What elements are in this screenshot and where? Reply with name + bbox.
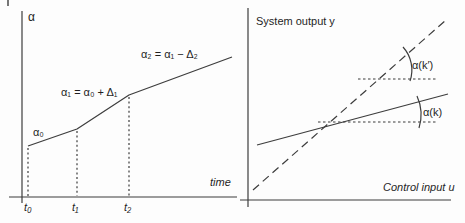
left-x-axis-label: time <box>210 176 231 188</box>
tick-label-t1: t₁ <box>72 201 79 213</box>
left-plot <box>9 11 237 203</box>
right-plot <box>240 8 451 207</box>
alpha1-equation-label: α₁ = α₀ + Δ₁ <box>61 86 118 98</box>
angle-label-k: α(k) <box>423 106 442 118</box>
left-y-axis-label: α <box>28 11 35 23</box>
tick-label-t2: t₂ <box>124 201 131 213</box>
right-x-axis-label: Control input u <box>383 181 455 193</box>
right-y-axis-label: System output y <box>256 15 335 27</box>
angle-label-kprime: α(k′) <box>412 59 433 71</box>
alpha0-label: α₀ <box>33 126 44 138</box>
tick-label-t0: t₀ <box>24 201 32 213</box>
alpha2-equation-label: α₂ = α₁ − Δ₂ <box>141 48 198 60</box>
figure-canvas: α time α₀ α₁ = α₀ + Δ₁ α₂ = α₁ − Δ₂ t₀ t… <box>0 0 465 223</box>
alpha-curve <box>28 57 232 146</box>
gain-line-dashed <box>253 20 446 190</box>
angle-arc-kprime <box>403 47 412 81</box>
